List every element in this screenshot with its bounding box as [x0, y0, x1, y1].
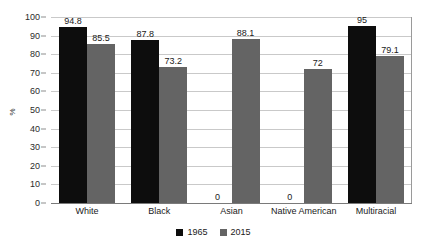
- y-axis-tick-label: 40: [30, 124, 40, 133]
- bar-group: 87.873.2: [123, 17, 195, 203]
- bar-1965[interactable]: 95: [348, 26, 376, 203]
- y-axis-tick-mark: [41, 91, 46, 92]
- legend-label: 2015: [231, 228, 251, 237]
- bar-chart: % 1009080706050403020100 94.885.587.873.…: [0, 0, 427, 248]
- y-axis-tick-mark: [41, 54, 46, 55]
- legend-label: 1965: [187, 228, 207, 237]
- bar-value-label: 79.1: [381, 45, 399, 55]
- y-axis-tick-label: 10: [30, 180, 40, 189]
- y-axis-tick-mark: [41, 165, 46, 166]
- x-axis-category-label: Native American: [268, 206, 340, 217]
- y-axis-tick-labels: 1009080706050403020100: [18, 17, 46, 203]
- bar-group: 088.1: [195, 17, 267, 203]
- y-axis-tick-mark: [41, 35, 46, 36]
- y-axis-tick-mark: [41, 147, 46, 148]
- y-axis-tick-mark: [41, 203, 46, 204]
- bar-group: 072: [268, 17, 340, 203]
- bar-value-label: 73.2: [165, 56, 183, 66]
- bar-value-label: 87.8: [137, 29, 155, 39]
- y-axis-tick-label: 100: [25, 13, 40, 22]
- bar-value-label: 72: [313, 58, 323, 68]
- x-axis-line: [51, 203, 412, 204]
- y-axis-tick-label: 90: [30, 31, 40, 40]
- bar-value-label: 95: [357, 15, 367, 25]
- bar-pair: 088.1: [204, 17, 260, 203]
- legend-item[interactable]: 1965: [176, 228, 207, 237]
- y-axis-tick-mark: [41, 128, 46, 129]
- x-axis-category-label: Multiracial: [340, 206, 412, 217]
- bar-2015[interactable]: 88.1: [232, 39, 260, 203]
- y-axis-tick-mark: [41, 110, 46, 111]
- bar-pair: 072: [276, 17, 332, 203]
- bar-value-label: 85.5: [92, 33, 110, 43]
- x-axis-category-label: Black: [123, 206, 195, 217]
- y-axis-tick-label: 20: [30, 161, 40, 170]
- x-axis-category-labels: WhiteBlackAsianNative AmericanMultiracia…: [51, 206, 412, 217]
- y-axis-tick-label: 80: [30, 50, 40, 59]
- bar-value-label: 0: [215, 192, 220, 202]
- y-axis-tick-mark: [41, 17, 46, 18]
- bar-2015[interactable]: 72: [304, 69, 332, 203]
- y-axis-tick-label: 70: [30, 68, 40, 77]
- bar-1965[interactable]: 94.8: [59, 27, 87, 203]
- bar-1965[interactable]: 87.8: [131, 40, 159, 203]
- bar-2015[interactable]: 85.5: [87, 44, 115, 203]
- y-axis-tick-label: 60: [30, 87, 40, 96]
- bar-2015[interactable]: 73.2: [159, 67, 187, 203]
- legend-swatch-icon: [176, 229, 183, 236]
- bar-group: 9579.1: [340, 17, 412, 203]
- bar-value-label: 94.8: [64, 16, 82, 26]
- x-axis-category-label: Asian: [195, 206, 267, 217]
- bar-group: 94.885.5: [51, 17, 123, 203]
- legend-item[interactable]: 2015: [220, 228, 251, 237]
- y-axis-tick-mark: [41, 72, 46, 73]
- y-axis-tick-label: 0: [35, 199, 40, 208]
- x-axis-category-label: White: [51, 206, 123, 217]
- y-axis-tick-label: 50: [30, 106, 40, 115]
- bar-pair: 94.885.5: [59, 17, 115, 203]
- y-axis-tick-label: 30: [30, 143, 40, 152]
- bar-value-label: 0: [287, 192, 292, 202]
- chart-legend: 19652015: [0, 228, 427, 237]
- bar-value-label: 88.1: [237, 28, 255, 38]
- bar-pair: 87.873.2: [131, 17, 187, 203]
- y-axis-tick-mark: [41, 184, 46, 185]
- bar-pair: 9579.1: [348, 17, 404, 203]
- legend-swatch-icon: [220, 229, 227, 236]
- bar-2015[interactable]: 79.1: [376, 56, 404, 203]
- bar-groups: 94.885.587.873.2088.10729579.1: [51, 17, 412, 203]
